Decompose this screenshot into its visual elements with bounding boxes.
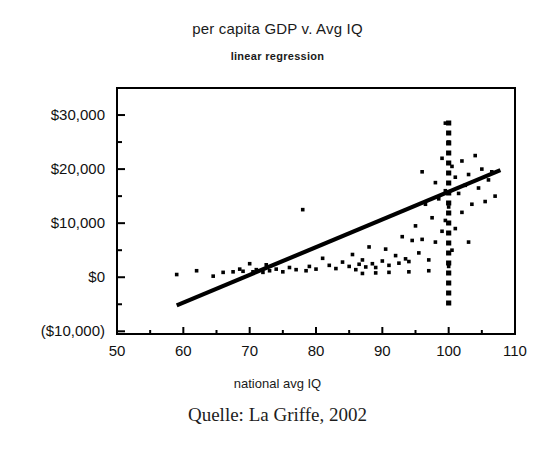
data-point [460, 159, 464, 163]
data-point [404, 257, 408, 261]
data-point [195, 269, 199, 273]
data-point [301, 208, 305, 212]
data-point [371, 262, 375, 266]
data-point [221, 271, 225, 275]
x-axis-tick-label: 110 [503, 342, 527, 359]
data-point [268, 269, 272, 273]
data-point [477, 186, 481, 190]
data-point [351, 253, 355, 257]
data-point [407, 260, 411, 264]
data-point [407, 270, 411, 274]
x-axis-tick-label: 90 [374, 342, 391, 359]
data-point [231, 270, 235, 274]
data-point [381, 259, 385, 263]
y-axis-tick-label: $0 [88, 268, 105, 285]
data-point [387, 271, 391, 275]
data-point [334, 267, 338, 271]
data-point [211, 274, 215, 278]
x-axis-tick-label: 100 [436, 342, 461, 359]
data-point [447, 205, 451, 209]
data-point [430, 216, 434, 220]
data-point [354, 268, 358, 272]
data-point [274, 267, 278, 271]
data-point [281, 270, 285, 274]
data-point [387, 264, 391, 268]
plot-frame [117, 88, 515, 334]
data-point [327, 264, 331, 268]
data-point [427, 258, 431, 262]
data-point [308, 265, 312, 269]
data-point [341, 260, 345, 264]
y-axis-tick-label: $20,000 [51, 160, 105, 177]
data-point [238, 267, 242, 271]
data-point [427, 269, 431, 273]
data-point [347, 265, 351, 269]
data-point [175, 273, 179, 277]
data-point [357, 262, 361, 266]
data-point [384, 247, 388, 251]
y-axis-tick-label: $10,000 [51, 214, 105, 231]
x-axis-tick-label: 70 [241, 342, 258, 359]
data-point [467, 173, 471, 177]
regression-line [177, 170, 501, 305]
x-axis-label: national avg IQ [0, 376, 555, 391]
data-point [454, 175, 458, 179]
data-point [294, 268, 298, 272]
data-point [321, 257, 325, 261]
data-point [288, 266, 292, 270]
x-axis-tick-label: 60 [175, 342, 192, 359]
data-point [440, 229, 444, 233]
data-point [420, 170, 424, 174]
data-point [440, 156, 444, 160]
data-point [374, 271, 378, 275]
data-point [361, 272, 365, 276]
data-point [361, 258, 365, 262]
data-point [248, 262, 252, 266]
data-point [394, 254, 398, 258]
data-point [304, 269, 308, 273]
data-point [483, 200, 487, 204]
data-point [470, 202, 474, 206]
y-axis-tick-label: $30,000 [51, 106, 105, 123]
data-point [493, 194, 497, 198]
data-point [417, 251, 421, 255]
source-caption: Quelle: La Griffe, 2002 [0, 404, 555, 426]
data-point [400, 235, 404, 239]
y-axis-tick-label: ($10,000) [41, 322, 105, 339]
data-point [420, 238, 424, 242]
data-point [487, 178, 491, 182]
chart-figure: per capita GDP v. Avg IQ linear regressi… [0, 0, 555, 455]
data-point [414, 224, 418, 228]
data-point [454, 227, 458, 231]
data-point [473, 154, 477, 158]
data-point [480, 167, 484, 171]
data-point [460, 211, 464, 215]
data-point [314, 267, 318, 271]
data-point [434, 240, 438, 244]
data-point [467, 240, 471, 244]
data-point [410, 239, 414, 243]
data-point [364, 265, 368, 269]
data-point [241, 269, 245, 273]
x-axis-tick-label: 80 [308, 342, 325, 359]
data-point [457, 192, 461, 196]
x-axis-tick-label: 50 [109, 342, 126, 359]
data-point [434, 181, 438, 185]
data-point [367, 245, 371, 249]
data-point [374, 266, 378, 270]
data-point [397, 261, 401, 265]
